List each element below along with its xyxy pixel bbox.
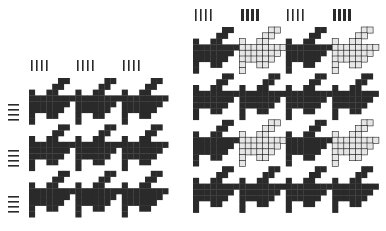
right-houndstooth-pattern <box>190 0 386 231</box>
warp-marker-group <box>333 9 351 21</box>
weft-marker-group <box>8 150 19 167</box>
warp-marker-group <box>287 9 304 21</box>
left-houndstooth-figure <box>0 0 190 231</box>
warp-marker-group <box>31 60 48 71</box>
weft-marker-group <box>8 104 19 121</box>
right-houndstooth-figure <box>190 0 386 231</box>
houndstooth-grid <box>29 78 169 218</box>
warp-marker-group <box>123 60 140 71</box>
left-houndstooth-pattern <box>0 0 190 231</box>
weft-marker-group <box>8 196 19 213</box>
warp-marker-group <box>195 9 212 21</box>
warp-marker-group <box>241 9 259 21</box>
warp-marker-group <box>77 60 94 71</box>
houndstooth-grid <box>193 27 379 213</box>
